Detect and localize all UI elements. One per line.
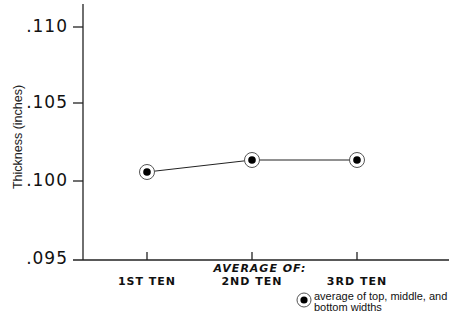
y-tick-label: .105 xyxy=(8,92,68,112)
x-axis-title: AVERAGE OF: xyxy=(190,262,330,275)
x-tick-label: 2ND TEN xyxy=(202,275,302,288)
y-tick-label: .100 xyxy=(8,170,68,190)
x-tick-label: 1ST TEN xyxy=(97,275,197,288)
legend: average of top, middle, and bottom width… xyxy=(297,291,459,312)
data-point-2nd-ten xyxy=(245,153,260,168)
data-point-3rd-ten xyxy=(350,153,365,168)
data-point-1st-ten xyxy=(140,165,155,180)
x-tick-label: 3RD TEN xyxy=(307,275,407,288)
legend-label: average of top, middle, and bottom width… xyxy=(314,291,459,312)
legend-label-line2: bottom widths xyxy=(314,302,459,312)
y-tick-label: .110 xyxy=(8,16,68,36)
y-tick-label: .095 xyxy=(8,248,68,268)
